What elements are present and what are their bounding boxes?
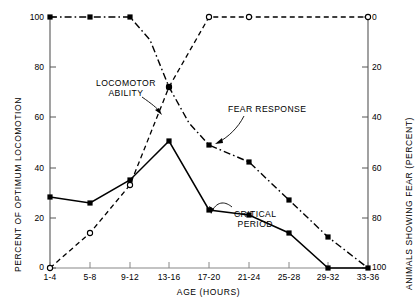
x-axis-title: AGE (HOURS) [0,287,417,297]
annotation-locomotor-line2: ABILITY [96,88,156,98]
y-tick-right-20: 20 [372,62,398,72]
leader-line-critical [212,203,232,211]
leader-arrow-locomotor [155,108,162,115]
y-tick-left-60: 60 [18,112,44,122]
annotation-critical-line2: PERIOD [234,219,276,229]
y-ticks-right [362,17,368,268]
y-tick-left-80: 80 [18,62,44,72]
y-tick-right-100: 100 [372,262,398,272]
y-axis-right-title: ANIMALS SHOWING FEAR (PERCENT) [404,117,414,290]
chart-figure: PERCENT OF OPTIMUM LOCOMOTION ANIMALS SH… [0,0,417,308]
y-axis-left-title: PERCENT OF OPTIMUM LOCOMOTION [13,97,23,272]
annotation-fear-response: FEAR RESPONSE [228,104,306,114]
annotation-critical-period: CRITICAL PERIOD [234,209,276,229]
annotation-critical-line1: CRITICAL [234,209,276,219]
leader-arrow-fear [215,138,223,144]
y-tick-left-100: 100 [18,12,44,22]
x-ticks [50,262,368,268]
annotation-fear-line1: FEAR RESPONSE [228,104,306,114]
series-critical-period-markers [47,138,330,270]
y-ticks-left [50,17,56,268]
y-tick-left-40: 40 [18,163,44,173]
annotation-locomotor-line1: LOCOMOTOR [96,78,156,88]
y-tick-right-80: 80 [372,213,398,223]
y-tick-right-0: 0 [372,12,398,22]
y-tick-left-20: 20 [18,213,44,223]
x-tick-33-36: 33-36 [345,272,391,282]
y-tick-left-0: 0 [18,262,44,272]
y-tick-right-60: 60 [372,163,398,173]
series-critical-period-line [50,141,368,268]
annotation-locomotor-ability: LOCOMOTOR ABILITY [96,78,156,98]
y-tick-right-40: 40 [372,112,398,122]
leader-line-fear [219,116,244,142]
chart-canvas [0,0,417,308]
series-fear-response-markers [47,14,370,270]
